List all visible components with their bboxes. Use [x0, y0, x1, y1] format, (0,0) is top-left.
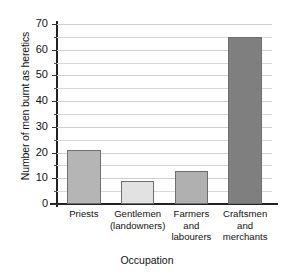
y-tick-label: 60 — [26, 44, 48, 55]
bar — [121, 181, 154, 204]
gridline — [57, 24, 272, 25]
x-tick-label-line: Craftsmen — [212, 208, 278, 220]
y-tick-label: 0 — [26, 198, 48, 209]
y-tick-mark — [52, 204, 57, 205]
y-tick-label: 40 — [26, 95, 48, 106]
x-tick-label-line: and — [212, 220, 278, 232]
plot-area — [57, 24, 272, 204]
y-tick-label: 50 — [26, 69, 48, 80]
x-axis-title: Occupation — [0, 254, 294, 266]
x-tick-label: Craftsmenandmerchants — [212, 208, 278, 243]
bar-chart-figure: Number of men burnt as heretics 01020304… — [0, 0, 294, 276]
bar — [228, 37, 261, 204]
bar — [175, 171, 208, 204]
y-tick-label: 30 — [26, 121, 48, 132]
y-tick-label: 70 — [26, 18, 48, 29]
x-tick-label-line: merchants — [212, 231, 278, 243]
y-tick-label: 20 — [26, 147, 48, 158]
bar — [67, 150, 100, 204]
x-axis-tick-labels: PriestsGentlemen(landowners)Farmersandla… — [57, 208, 272, 254]
y-tick-label: 10 — [26, 172, 48, 183]
